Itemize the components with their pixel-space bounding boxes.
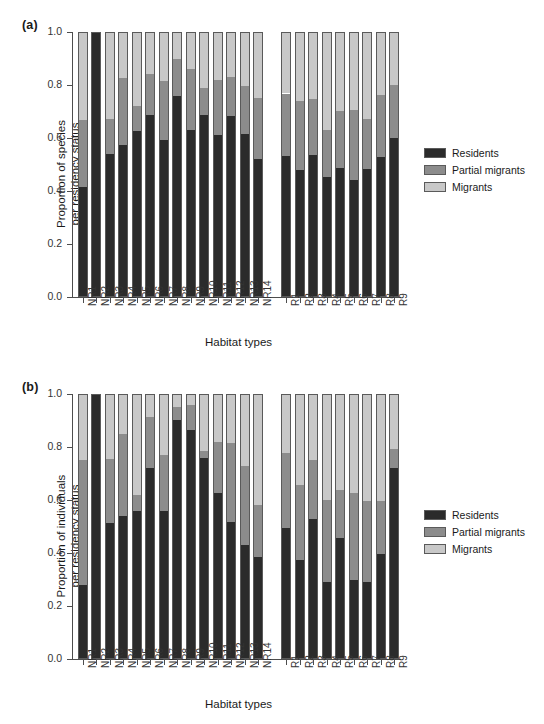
bar-r4[interactable] bbox=[322, 32, 332, 297]
bar-nr4[interactable] bbox=[118, 32, 128, 297]
x-tick-mark bbox=[367, 298, 368, 303]
legend-swatch-icon bbox=[424, 510, 446, 520]
y-tick-label: 0.8 bbox=[47, 78, 62, 90]
bar-outline bbox=[118, 394, 128, 659]
panel-b-plot-area: 0.00.20.40.60.81.0NR1NR2NR3NR4NR5NR6NR7N… bbox=[76, 394, 401, 659]
bar-nr10[interactable] bbox=[199, 394, 209, 659]
legend-swatch-icon bbox=[424, 148, 446, 158]
bar-nr5[interactable] bbox=[132, 32, 142, 297]
bar-nr8[interactable] bbox=[172, 394, 182, 659]
bar-nr4[interactable] bbox=[118, 394, 128, 659]
x-tick-mark bbox=[231, 298, 232, 303]
bar-r7[interactable] bbox=[362, 394, 372, 659]
bar-nr13[interactable] bbox=[240, 394, 250, 659]
x-tick-mark bbox=[204, 660, 205, 665]
x-tick-mark bbox=[83, 298, 84, 303]
bar-outline bbox=[335, 394, 345, 659]
x-tick-mark bbox=[258, 298, 259, 303]
y-tick-label: 0.8 bbox=[47, 440, 62, 452]
bar-nr1[interactable] bbox=[78, 32, 88, 297]
bar-r5[interactable] bbox=[335, 394, 345, 659]
x-tick-mark bbox=[96, 660, 97, 665]
panel-b: (b) Proportion of individuals per reside… bbox=[0, 362, 544, 724]
legend-swatch-icon bbox=[424, 182, 446, 192]
bar-r2[interactable] bbox=[295, 32, 305, 297]
bar-nr3[interactable] bbox=[105, 394, 115, 659]
bar-r9[interactable] bbox=[389, 32, 399, 297]
bar-nr2[interactable] bbox=[91, 394, 101, 659]
bar-nr2[interactable] bbox=[91, 32, 101, 297]
bar-outline bbox=[199, 394, 209, 659]
bar-r1[interactable] bbox=[281, 32, 291, 297]
x-tick-mark bbox=[340, 660, 341, 665]
x-tick-mark bbox=[286, 298, 287, 303]
bar-nr9[interactable] bbox=[186, 394, 196, 659]
bar-r1[interactable] bbox=[281, 394, 291, 659]
legend-item-partial-migrants[interactable]: Partial migrants bbox=[424, 524, 544, 539]
bar-outline bbox=[281, 32, 291, 297]
bar-nr5[interactable] bbox=[132, 394, 142, 659]
y-tick-label: 0.0 bbox=[47, 290, 62, 302]
x-tick-mark bbox=[177, 660, 178, 665]
bar-nr7[interactable] bbox=[159, 32, 169, 297]
bar-r2[interactable] bbox=[295, 394, 305, 659]
bar-r3[interactable] bbox=[308, 394, 318, 659]
bar-r8[interactable] bbox=[376, 394, 386, 659]
bar-r8[interactable] bbox=[376, 32, 386, 297]
x-tick-mark bbox=[110, 660, 111, 665]
x-tick-mark bbox=[300, 660, 301, 665]
bar-nr13[interactable] bbox=[240, 32, 250, 297]
legend-item-residents[interactable]: Residents bbox=[424, 507, 544, 522]
y-tick-mark bbox=[67, 553, 72, 554]
bar-outline bbox=[226, 394, 236, 659]
bar-outline bbox=[362, 394, 372, 659]
bar-nr11[interactable] bbox=[213, 394, 223, 659]
bar-nr12[interactable] bbox=[226, 394, 236, 659]
legend-item-residents[interactable]: Residents bbox=[424, 145, 544, 160]
bar-nr10[interactable] bbox=[199, 32, 209, 297]
bar-outline bbox=[253, 394, 263, 659]
y-tick-mark bbox=[67, 659, 72, 660]
bar-nr9[interactable] bbox=[186, 32, 196, 297]
x-tick-mark bbox=[354, 298, 355, 303]
bar-nr3[interactable] bbox=[105, 32, 115, 297]
panel-b-legend: ResidentsPartial migrantsMigrants bbox=[424, 507, 544, 558]
x-tick-mark bbox=[218, 298, 219, 303]
bar-nr14[interactable] bbox=[253, 394, 263, 659]
bar-r6[interactable] bbox=[349, 394, 359, 659]
bar-nr11[interactable] bbox=[213, 32, 223, 297]
bar-outline bbox=[172, 394, 182, 659]
x-tick-mark bbox=[177, 298, 178, 303]
bar-r4[interactable] bbox=[322, 394, 332, 659]
y-tick-label: 0.0 bbox=[47, 652, 62, 664]
bar-nr6[interactable] bbox=[145, 32, 155, 297]
bar-nr7[interactable] bbox=[159, 394, 169, 659]
bar-nr8[interactable] bbox=[172, 32, 182, 297]
x-tick-mark bbox=[137, 660, 138, 665]
bar-nr6[interactable] bbox=[145, 394, 155, 659]
x-tick-mark bbox=[123, 298, 124, 303]
legend-item-partial-migrants[interactable]: Partial migrants bbox=[424, 162, 544, 177]
bar-outline bbox=[91, 394, 101, 659]
panel-a: (a) Proportion of species per residency … bbox=[0, 0, 544, 362]
bar-nr12[interactable] bbox=[226, 32, 236, 297]
legend-item-migrants[interactable]: Migrants bbox=[424, 541, 544, 556]
bar-nr1[interactable] bbox=[78, 394, 88, 659]
bar-outline bbox=[295, 32, 305, 297]
bar-r5[interactable] bbox=[335, 32, 345, 297]
x-tick-mark bbox=[150, 298, 151, 303]
legend-item-migrants[interactable]: Migrants bbox=[424, 179, 544, 194]
x-tick-mark bbox=[110, 298, 111, 303]
bar-outline bbox=[308, 394, 318, 659]
bar-nr14[interactable] bbox=[253, 32, 263, 297]
bar-r7[interactable] bbox=[362, 32, 372, 297]
x-tick-mark bbox=[340, 298, 341, 303]
bar-r9[interactable] bbox=[389, 394, 399, 659]
bar-r6[interactable] bbox=[349, 32, 359, 297]
bar-outline bbox=[308, 32, 318, 297]
legend-label: Migrants bbox=[452, 181, 492, 193]
bar-r3[interactable] bbox=[308, 32, 318, 297]
bar-outline bbox=[132, 32, 142, 297]
y-tick-mark bbox=[67, 447, 72, 448]
x-tick-mark bbox=[394, 298, 395, 303]
